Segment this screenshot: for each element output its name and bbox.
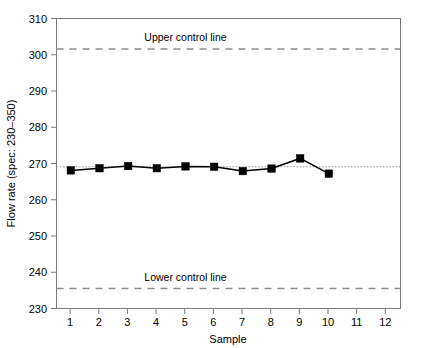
chart-svg: 310 300 290 280 270 260 250 240 230 Flow… [0, 0, 425, 348]
y-axis-title: Flow rate (spec: 230–350) [5, 100, 17, 228]
upper-control-line-label: Upper control line [144, 31, 226, 43]
lower-control-line-label: Lower control line [144, 271, 226, 283]
data-point [296, 155, 304, 163]
data-point [182, 163, 190, 171]
data-point [210, 163, 218, 171]
y-tick-label-250: 250 [29, 230, 47, 242]
data-point [239, 167, 247, 175]
x-tick-label-7: 7 [239, 316, 245, 328]
x-axis-title: Sample [209, 333, 246, 345]
data-point [325, 170, 333, 178]
y-tick-label-240: 240 [29, 266, 47, 278]
x-tick-label-6: 6 [210, 316, 216, 328]
x-tick-label-5: 5 [182, 316, 188, 328]
y-axis-tick-labels: 310 300 290 280 270 260 250 240 230 [29, 13, 47, 315]
y-tick-label-310: 310 [29, 13, 47, 25]
control-chart: 310 300 290 280 270 260 250 240 230 Flow… [0, 0, 425, 348]
data-point [96, 164, 104, 172]
data-point [268, 165, 276, 173]
y-tick-label-260: 260 [29, 194, 47, 206]
y-tick-label-230: 230 [29, 303, 47, 315]
x-tick-label-10: 10 [322, 316, 334, 328]
x-tick-label-1: 1 [67, 316, 73, 328]
x-tick-label-12: 12 [379, 316, 391, 328]
data-point [153, 164, 161, 172]
data-point [67, 167, 75, 175]
x-tick-label-9: 9 [296, 316, 302, 328]
x-tick-label-4: 4 [153, 316, 159, 328]
x-tick-label-8: 8 [268, 316, 274, 328]
x-tick-label-2: 2 [96, 316, 102, 328]
data-point [124, 162, 132, 170]
y-tick-label-270: 270 [29, 158, 47, 170]
y-tick-label-290: 290 [29, 85, 47, 97]
x-tick-label-3: 3 [124, 316, 130, 328]
y-tick-label-280: 280 [29, 121, 47, 133]
x-tick-label-11: 11 [351, 316, 362, 328]
chart-background [0, 0, 425, 348]
y-tick-label-300: 300 [29, 49, 47, 61]
